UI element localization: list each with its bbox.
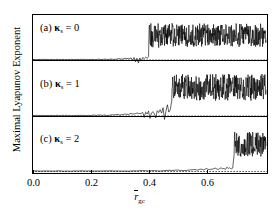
data-traces: [33, 23, 267, 171]
x-tick-label-3: 0.6: [201, 177, 214, 188]
panel-label-a: (a) κs = 0: [40, 23, 79, 34]
panel-a-value: 0: [74, 22, 79, 33]
panel-a-tag: (a): [40, 22, 52, 33]
x-axis-tick-labels: 0.00.20.40.6: [27, 177, 214, 188]
panel-b-kappa: κ: [55, 78, 61, 89]
panel-c-subscript: s: [60, 138, 63, 145]
panel-b-tag: (b): [40, 78, 52, 89]
panel-b-value: 1: [75, 78, 80, 89]
panel-b-equals: =: [66, 78, 72, 89]
panel-a-subscript: s: [60, 27, 63, 34]
figure-container: 0.00.20.40.6 (a) κs = 0 (b) κs = 1 (c) κ…: [0, 0, 279, 213]
panel-label-c: (c) κs = 2: [40, 134, 79, 145]
panel-a-equals: =: [65, 22, 71, 33]
x-axis-title: rgc: [0, 191, 279, 202]
panel-label-b: (b) κs = 1: [40, 79, 80, 90]
panel-c-value: 2: [74, 133, 79, 144]
x-tick-label-1: 0.2: [85, 177, 98, 188]
panel-c-equals: =: [65, 133, 71, 144]
x-axis-title-subscript: gc: [138, 197, 145, 205]
x-tick-label-2: 0.4: [143, 177, 157, 188]
panel-b-subscript: s: [61, 83, 64, 90]
x-tick-label-0: 0.0: [27, 177, 40, 188]
panel-c-tag: (c): [40, 133, 52, 144]
y-axis-title: Maximal Lyapunov Exponent: [11, 10, 22, 170]
